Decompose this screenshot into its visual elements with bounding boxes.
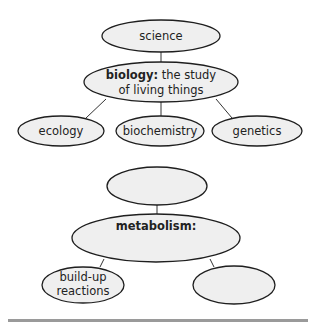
node-metabolism: metabolism:: [72, 214, 240, 262]
node-blank-top: [107, 167, 207, 205]
node-biology-line2: of living things: [119, 83, 204, 97]
node-genetics: genetics: [212, 116, 302, 146]
node-ecology: ecology: [18, 116, 104, 146]
connector-biology-genetics: [216, 99, 232, 118]
node-ecology-label: ecology: [39, 124, 84, 138]
connector-metabolism-blank: [210, 259, 214, 267]
node-biology-term: biology:: [106, 68, 158, 82]
connector-metabolism-buildup: [100, 259, 104, 267]
node-blank-right: [193, 266, 275, 304]
node-biochemistry-label: biochemistry: [123, 124, 198, 138]
node-buildup-line2: reactions: [57, 284, 110, 298]
node-biochemistry: biochemistry: [116, 116, 204, 146]
connector-biology-ecology: [86, 99, 106, 118]
node-biology-definition-part1: the study: [158, 68, 216, 82]
node-science-label: science: [139, 29, 182, 43]
node-biology: biology: the study of living things: [84, 62, 238, 102]
node-buildup-reactions: build-up reactions: [42, 267, 124, 303]
node-genetics-label: genetics: [233, 124, 282, 138]
concept-map-canvas: science biology: the study of living thi…: [0, 0, 316, 324]
node-metabolism-term: metabolism:: [116, 219, 196, 233]
footer-divider: [8, 319, 308, 322]
node-buildup-line1: build-up: [59, 270, 106, 284]
node-biology-line1: biology: the study: [106, 68, 217, 82]
node-science: science: [102, 20, 220, 52]
